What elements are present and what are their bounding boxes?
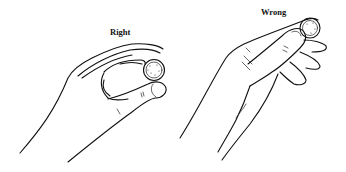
wrong-grip-hand-icon (180, 18, 326, 160)
hands-drawing (0, 0, 346, 172)
grip-illustration: Right Wrong (0, 0, 346, 172)
right-grip-hand-icon (20, 44, 166, 162)
